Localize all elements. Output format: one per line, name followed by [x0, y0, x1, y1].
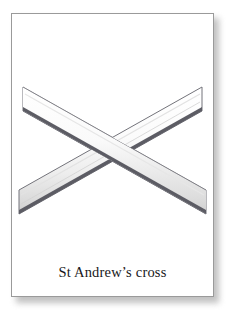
illustration-card: St Andrew’s cross [11, 13, 214, 297]
caption-label: St Andrew’s cross [12, 264, 213, 281]
saltire-diagonal-cross-icon [12, 14, 213, 244]
saltire-illustration [12, 14, 213, 244]
page-root: St Andrew’s cross [0, 0, 226, 313]
